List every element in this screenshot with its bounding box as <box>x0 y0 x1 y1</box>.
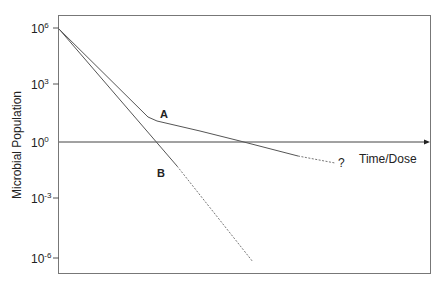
plot-frame <box>59 16 431 274</box>
curve-a-label: A <box>160 108 168 120</box>
y-tick-label-1e0: 100 <box>31 135 49 150</box>
curve-b-solid <box>59 29 177 166</box>
y-tick-label-1e-6: 10-6 <box>31 251 52 266</box>
x-axis-label: Time/Dose <box>359 152 417 166</box>
curve-b-label: B <box>157 167 165 179</box>
survival-curve-figure: 106 103 100 10-3 10-6 Microbial Populati… <box>0 0 441 289</box>
y-tick-label-1e6: 106 <box>31 21 49 36</box>
y-tick-label-1e-3: 10-3 <box>31 191 52 206</box>
curve-a-dashed <box>298 156 335 163</box>
curve-a-uncertain-mark: ? <box>338 156 345 170</box>
y-axis-label: Microbial Population <box>10 91 24 199</box>
curve-a-solid <box>59 29 298 156</box>
axis-arrowhead-icon <box>424 140 430 145</box>
y-tick-label-1e3: 103 <box>31 77 49 92</box>
curve-b-dashed <box>177 166 253 262</box>
